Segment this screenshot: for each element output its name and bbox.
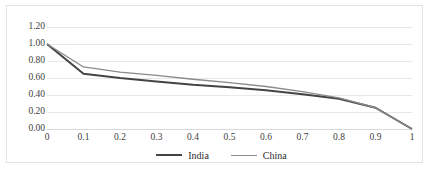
legend-line-swatch-icon (156, 154, 182, 156)
x-tick-label: 0 (45, 132, 50, 143)
chart-figure: 0.000.200.400.600.801.001.20 00.10.20.30… (0, 0, 429, 170)
x-axis-line (47, 129, 412, 130)
x-tick-label: 0.7 (297, 132, 309, 143)
chart-legend: IndiaChina (13, 147, 429, 163)
x-tick-label: 1 (410, 132, 415, 143)
series-line-india (47, 44, 412, 129)
y-tick-label: 0.00 (13, 124, 45, 134)
x-tick-label: 0.5 (224, 132, 236, 143)
legend-label: China (263, 150, 287, 161)
x-tick-label: 0.4 (187, 132, 199, 143)
legend-item-india[interactable]: India (156, 150, 209, 161)
y-tick-label: 0.80 (13, 56, 45, 66)
x-tick-label: 0.3 (151, 132, 163, 143)
y-tick-label: 0.20 (13, 107, 45, 117)
y-tick-label: 1.00 (13, 39, 45, 49)
legend-label: India (188, 150, 209, 161)
x-tick-label: 0.6 (260, 132, 272, 143)
chart-frame: 0.000.200.400.600.801.001.20 00.10.20.30… (6, 5, 423, 163)
x-tick-label: 0.8 (333, 132, 345, 143)
legend-line-swatch-icon (231, 155, 257, 156)
plot-area (47, 27, 412, 129)
x-tick-label: 0.2 (114, 132, 126, 143)
legend-item-china[interactable]: China (231, 150, 287, 161)
x-tick-label: 0.1 (78, 132, 90, 143)
y-axis-tick-labels: 0.000.200.400.600.801.001.20 (13, 27, 45, 129)
x-axis-tick-labels: 00.10.20.30.40.50.60.70.80.91 (47, 132, 412, 146)
y-tick-label: 0.40 (13, 90, 45, 100)
y-tick-label: 0.60 (13, 73, 45, 83)
y-tick-label: 1.20 (13, 22, 45, 32)
x-tick-label: 0.9 (370, 132, 382, 143)
series-layer (47, 27, 412, 129)
